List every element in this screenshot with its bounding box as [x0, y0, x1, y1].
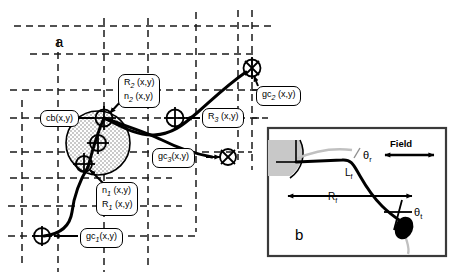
callout-r2-n2: R2 (x,y) n2 (x,y) — [118, 74, 160, 108]
figure-canvas — [0, 0, 451, 275]
field-label: Field — [390, 139, 412, 149]
lf-label: Lf — [345, 168, 353, 180]
panel-b-letter: b — [295, 227, 303, 242]
callout-r2: R2 (x,y) — [124, 77, 154, 91]
node-marker-gc2 — [244, 57, 261, 79]
soil-grid — [8, 10, 268, 272]
callout-r3-line1: R3 (x,y) — [208, 111, 238, 121]
callout-n2: n2 (x,y) — [124, 91, 154, 105]
callout-gc2-line1: gc2 (x,y) — [262, 89, 295, 99]
theta-t-subscript: t — [420, 212, 422, 221]
figure-root: a b cb(x,y) R2 (x,y) n2 (x,y) gc2 (x,y) … — [0, 0, 451, 275]
callout-gc3: gc3(x,y) — [152, 148, 195, 168]
lf-subscript: f — [351, 173, 353, 180]
leader-gc2 — [254, 76, 258, 86]
panel-a-letter: a — [55, 34, 63, 49]
callout-cb: cb(x,y) — [40, 110, 79, 127]
node-marker-gc1 — [32, 226, 52, 246]
callout-r3: R3 (x,y) — [202, 108, 244, 128]
callout-gc2: gc2 (x,y) — [256, 86, 301, 106]
theta-t-label: θt — [414, 207, 422, 221]
theta-r-label: θr — [363, 150, 372, 164]
callout-gc1: gc1(x,y) — [80, 228, 123, 248]
callout-gc1-line1: gc1(x,y) — [86, 231, 117, 241]
rf-subscript: f — [335, 197, 337, 204]
callout-n1: n1 (x,y) — [102, 185, 132, 199]
callout-r1: R1 (x,y) — [102, 199, 132, 213]
theta-r-subscript: r — [369, 155, 372, 164]
callout-gc3-line1: gc3(x,y) — [158, 151, 189, 161]
callout-cb-line1: cb(x,y) — [46, 113, 73, 123]
rf-label: Rf — [328, 192, 337, 204]
callout-n1-r1: n1 (x,y) R1 (x,y) — [96, 182, 138, 216]
